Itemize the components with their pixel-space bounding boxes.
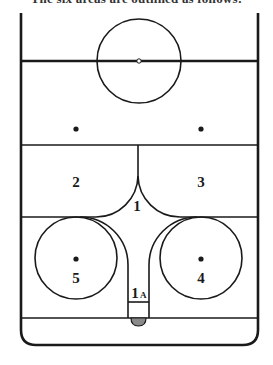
zone-label-3: 3 — [197, 174, 205, 190]
zone-1-left-arc — [96, 176, 138, 217]
zone-label-1a-sub: A — [140, 290, 147, 300]
slot-left-boundary — [80, 217, 128, 318]
zone-1-right-arc — [138, 176, 180, 217]
center-faceoff-dot — [137, 59, 141, 63]
slot-right-boundary — [149, 217, 197, 318]
faceoff-dot-right — [198, 256, 203, 261]
zone-label-4: 4 — [197, 270, 205, 286]
zone-label-2: 2 — [72, 174, 80, 190]
rink-diagram: 2 3 1 5 4 1 A — [0, 0, 273, 365]
zone-label-1a: 1 — [131, 285, 139, 301]
neutral-dot-right — [198, 126, 203, 131]
faceoff-dot-left — [73, 256, 78, 261]
zone-label-5: 5 — [72, 270, 80, 286]
goal-net — [131, 318, 146, 326]
zone-label-1: 1 — [133, 198, 141, 214]
neutral-dot-left — [73, 126, 78, 131]
